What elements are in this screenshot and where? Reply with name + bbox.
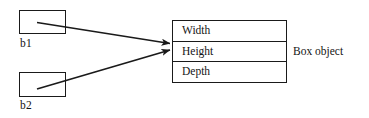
reference-box-b1: [19, 10, 66, 34]
reference-label-b1: b1: [20, 38, 32, 50]
object-field-table: Width Height Depth: [172, 20, 287, 83]
table-row: Width: [173, 21, 286, 42]
object-caption: Box object: [293, 46, 343, 58]
field-name-width: Width: [173, 25, 210, 37]
field-name-height: Height: [173, 46, 213, 58]
table-row: Height: [173, 42, 286, 63]
reference-box-b2: [19, 72, 66, 97]
diagram-canvas: b1 b2 Width Height Depth Box object: [0, 0, 369, 118]
reference-label-b2: b2: [20, 100, 32, 112]
field-name-depth: Depth: [173, 66, 210, 78]
table-row: Depth: [173, 62, 286, 82]
